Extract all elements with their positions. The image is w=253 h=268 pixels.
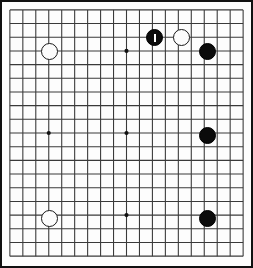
stone-black-marked[interactable] xyxy=(146,29,163,46)
stone-black[interactable] xyxy=(199,210,216,227)
stone-black[interactable] xyxy=(199,43,216,60)
last-move-marker-icon xyxy=(154,34,156,42)
stone-white[interactable] xyxy=(41,210,58,227)
go-board[interactable] xyxy=(0,0,253,268)
stone-black[interactable] xyxy=(199,127,216,144)
stone-white[interactable] xyxy=(173,29,190,46)
stone-white[interactable] xyxy=(41,43,58,60)
stone-layer xyxy=(2,2,253,268)
